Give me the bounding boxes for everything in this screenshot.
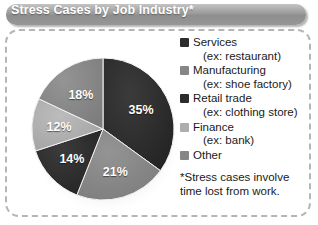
chart-footnote: *Stress cases involve time lost from wor… bbox=[180, 171, 312, 198]
legend-item-other: Other bbox=[180, 149, 312, 163]
legend-item-services: Services (ex: restaurant) bbox=[180, 36, 312, 63]
legend-swatch-manufacturing bbox=[180, 66, 189, 75]
legend-text-other: Other bbox=[193, 149, 312, 163]
legend-swatch-services bbox=[180, 38, 189, 47]
legend-swatch-finance bbox=[180, 123, 189, 132]
legend-label-finance: Finance bbox=[193, 121, 312, 135]
legend-item-finance: Finance (ex: bank) bbox=[180, 121, 312, 148]
pie-slice-label-other: 18% bbox=[68, 88, 93, 102]
legend-text-retail-trade: Retail trade (ex: clothing store) bbox=[193, 92, 312, 119]
legend-item-manufacturing: Manufacturing (ex: shoe factory) bbox=[180, 64, 312, 91]
legend-sub-finance: (ex: bank) bbox=[193, 134, 312, 148]
legend-label-manufacturing: Manufacturing bbox=[193, 64, 312, 78]
legend-swatch-retail-trade bbox=[180, 94, 189, 103]
page-title: Stress Cases by Job Industry* bbox=[11, 2, 194, 19]
legend-label-other: Other bbox=[193, 149, 312, 163]
legend-label-services: Services bbox=[193, 36, 312, 50]
legend-sub-services: (ex: restaurant) bbox=[193, 50, 312, 64]
legend-text-manufacturing: Manufacturing (ex: shoe factory) bbox=[193, 64, 312, 91]
footnote-line-2: time lost from work. bbox=[180, 185, 312, 199]
legend-sub-manufacturing: (ex: shoe factory) bbox=[193, 78, 312, 92]
legend-swatch-other bbox=[180, 151, 189, 160]
legend-label-retail-trade: Retail trade bbox=[193, 92, 312, 106]
pie-slice-label-services: 35% bbox=[128, 103, 153, 117]
legend-text-services: Services (ex: restaurant) bbox=[193, 36, 312, 63]
legend-item-retail-trade: Retail trade (ex: clothing store) bbox=[180, 92, 312, 119]
legend-text-finance: Finance (ex: bank) bbox=[193, 121, 312, 148]
pie-chart: 35%21%14%12%18% bbox=[12, 34, 178, 209]
stress-cases-chart-card: Stress Cases by Job Industry* bbox=[0, 0, 318, 225]
footnote-line-1: *Stress cases involve bbox=[180, 171, 312, 185]
chart-legend: Services (ex: restaurant) Manufacturing … bbox=[180, 36, 312, 199]
pie-slice-label-manufacturing: 21% bbox=[103, 165, 128, 179]
pie-slice-label-finance: 12% bbox=[47, 120, 72, 134]
legend-sub-retail-trade: (ex: clothing store) bbox=[193, 106, 312, 120]
pie-slice-label-retail-trade: 14% bbox=[59, 152, 84, 166]
pie-chart-svg: 35%21%14%12%18% bbox=[28, 56, 178, 206]
